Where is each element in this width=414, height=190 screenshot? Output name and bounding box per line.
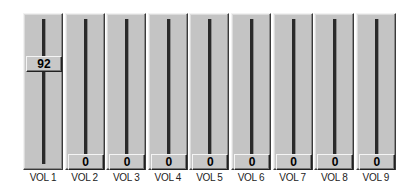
slider-strip: 0 xyxy=(65,13,105,170)
slider-track[interactable] xyxy=(125,19,129,164)
volume-mixer: 92 VOL 1 0 VOL 2 0 VOL 3 0 VOL 4 0 VOL 5 xyxy=(23,13,397,188)
slider-track[interactable] xyxy=(250,19,254,164)
slider-strip: 92 xyxy=(23,13,63,170)
slider-track[interactable] xyxy=(292,19,296,164)
channel-vol-3: 0 VOL 3 xyxy=(106,13,146,188)
slider-track[interactable] xyxy=(167,19,171,164)
slider-thumb-vol-9[interactable]: 0 xyxy=(359,154,395,170)
slider-strip: 0 xyxy=(273,13,313,170)
channel-vol-9: 0 VOL 9 xyxy=(356,13,396,188)
slider-strip: 0 xyxy=(356,13,396,170)
channel-vol-6: 0 VOL 6 xyxy=(231,13,271,188)
slider-thumb-vol-7[interactable]: 0 xyxy=(276,154,312,170)
channel-vol-8: 0 VOL 8 xyxy=(314,13,354,188)
slider-thumb-vol-8[interactable]: 0 xyxy=(317,154,353,170)
channel-vol-5: 0 VOL 5 xyxy=(189,13,229,188)
slider-strip: 0 xyxy=(314,13,354,170)
channel-vol-7: 0 VOL 7 xyxy=(273,13,313,188)
slider-thumb-vol-4[interactable]: 0 xyxy=(151,154,187,170)
channel-vol-4: 0 VOL 4 xyxy=(148,13,188,188)
slider-track[interactable] xyxy=(375,19,379,164)
slider-thumb-vol-5[interactable]: 0 xyxy=(192,154,228,170)
slider-strip: 0 xyxy=(189,13,229,170)
slider-thumb-vol-1[interactable]: 92 xyxy=(26,56,62,72)
channel-vol-2: 0 VOL 2 xyxy=(65,13,105,188)
slider-strip: 0 xyxy=(106,13,146,170)
slider-strip: 0 xyxy=(148,13,188,170)
slider-track[interactable] xyxy=(208,19,212,164)
slider-strip: 0 xyxy=(231,13,271,170)
slider-track[interactable] xyxy=(84,19,88,164)
slider-thumb-vol-6[interactable]: 0 xyxy=(234,154,270,170)
slider-track[interactable] xyxy=(42,19,46,164)
slider-thumb-vol-2[interactable]: 0 xyxy=(68,154,104,170)
slider-track[interactable] xyxy=(333,19,337,164)
channel-label: VOL 9 xyxy=(352,172,400,183)
slider-thumb-vol-3[interactable]: 0 xyxy=(109,154,145,170)
channel-vol-1: 92 VOL 1 xyxy=(23,13,63,188)
